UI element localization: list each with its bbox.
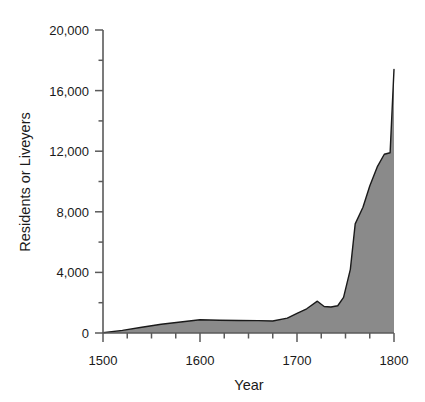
area-chart: 04,0008,00012,00016,00020,000 1500160017… [0,0,425,402]
chart-background [0,0,425,402]
x-tick-label: 1800 [380,353,409,368]
y-tick-label: 8,000 [56,205,89,220]
x-tick-label: 1700 [283,353,312,368]
x-axis-title: Year [234,377,263,393]
y-tick-label: 16,000 [49,84,89,99]
y-tick-label: 0 [82,326,89,341]
x-tick-label: 1600 [186,353,215,368]
x-tick-label: 1500 [89,353,118,368]
chart-figure: 04,0008,00012,00016,00020,000 1500160017… [0,0,425,402]
y-axis-title: Residents or Liveyers [17,112,33,251]
y-tick-label: 12,000 [49,144,89,159]
y-tick-label: 4,000 [56,265,89,280]
y-tick-label: 20,000 [49,23,89,38]
